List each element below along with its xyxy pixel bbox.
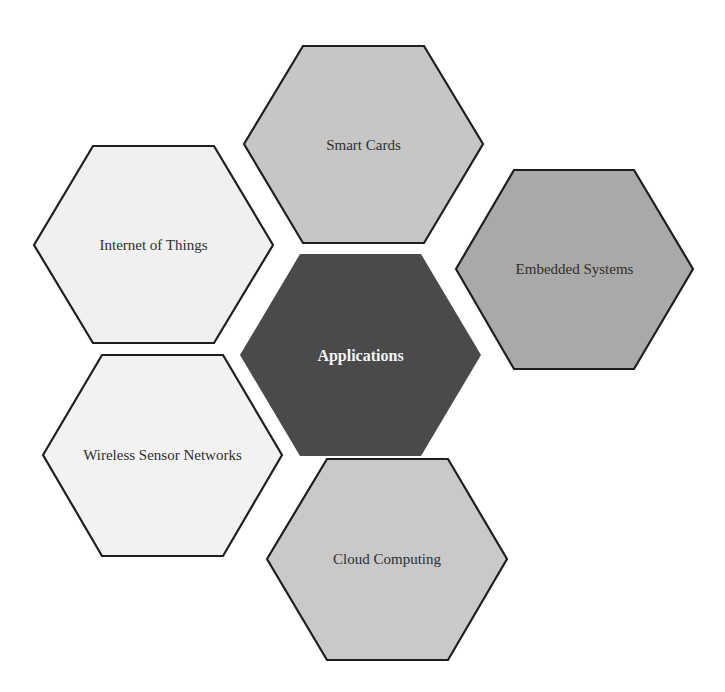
- applications-hexagon-diagram: Smart Cards Internet of Things Embedded …: [0, 0, 725, 692]
- hex-label-embedded-systems: Embedded Systems: [516, 261, 634, 277]
- hex-node-smart-cards: Smart Cards: [244, 46, 483, 243]
- hex-label-cloud-computing: Cloud Computing: [333, 551, 441, 567]
- hex-node-embedded-systems: Embedded Systems: [456, 170, 693, 369]
- hex-node-cloud-computing: Cloud Computing: [267, 459, 507, 660]
- hex-node-wireless-sensor-networks: Wireless Sensor Networks: [43, 355, 282, 556]
- hex-node-applications-center: Applications: [240, 254, 481, 456]
- hex-label-wireless-sensor-networks: Wireless Sensor Networks: [83, 447, 242, 463]
- hex-label-applications: Applications: [317, 347, 403, 365]
- hex-label-internet-of-things: Internet of Things: [99, 237, 207, 253]
- hex-node-internet-of-things: Internet of Things: [34, 146, 273, 343]
- hex-label-smart-cards: Smart Cards: [326, 137, 401, 153]
